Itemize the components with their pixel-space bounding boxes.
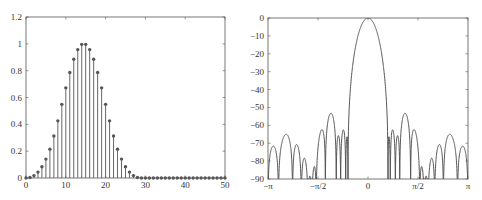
y-tick-label: 0.2	[11, 146, 22, 156]
stem-marker	[68, 71, 71, 74]
y-tick-label: −70	[250, 138, 265, 148]
stem-marker	[168, 176, 171, 179]
stem-marker	[144, 176, 147, 179]
x-tick-label: 20	[101, 180, 111, 190]
x-tick-label: 0	[366, 181, 371, 191]
stem-marker	[207, 176, 210, 179]
figure: 0102030405000.20.40.60.811.2 −π−π/20π/2π…	[0, 0, 482, 200]
y-tick-label: −50	[250, 102, 265, 112]
stem-marker	[211, 176, 214, 179]
stem-marker	[24, 176, 27, 179]
y-tick-label: −10	[250, 31, 265, 41]
y-tick-label: 1.2	[11, 12, 22, 22]
x-tick-label: −π/2	[310, 181, 327, 191]
stem-marker	[140, 176, 143, 179]
x-tick-label: 10	[61, 180, 71, 190]
y-tick-label: −20	[250, 49, 265, 59]
y-tick-label: −80	[250, 156, 265, 166]
y-tick-label: −40	[250, 85, 265, 95]
figure-canvas: 0102030405000.20.40.60.811.2 −π−π/20π/2π…	[0, 0, 482, 200]
stem-marker	[164, 176, 167, 179]
stem-marker	[76, 48, 79, 51]
stem-marker	[156, 176, 159, 179]
stem-marker	[187, 176, 190, 179]
stem-marker	[191, 176, 194, 179]
stem-marker	[104, 103, 107, 106]
x-tick-label: 40	[181, 180, 191, 190]
x-tick-label: −π	[263, 181, 273, 191]
stem-marker	[195, 176, 198, 179]
stem-marker	[136, 176, 139, 179]
stem-marker	[199, 176, 202, 179]
stem-marker	[36, 170, 39, 173]
y-tick-label: −90	[250, 174, 265, 184]
stem-marker	[96, 71, 99, 74]
y-tick-label: −60	[250, 120, 265, 130]
stem-marker	[80, 43, 83, 46]
stem-marker	[124, 165, 127, 168]
stem-marker	[203, 176, 206, 179]
plot-frame	[268, 18, 468, 179]
stem-marker	[223, 176, 226, 179]
stem-marker	[132, 174, 135, 177]
magnitude-curve	[268, 18, 468, 179]
stem-marker	[120, 157, 123, 160]
y-tick-label: 0.4	[11, 119, 23, 129]
stem-marker	[56, 119, 59, 122]
stem-marker	[44, 157, 47, 160]
x-tick-label: 30	[141, 180, 151, 190]
stem-marker	[180, 176, 183, 179]
x-tick-label: 50	[221, 180, 231, 190]
stem-marker	[160, 176, 163, 179]
stem-marker	[184, 176, 187, 179]
stem-marker	[100, 86, 103, 89]
stem-marker	[60, 103, 63, 106]
stem-marker	[72, 58, 75, 61]
stem-marker	[148, 176, 151, 179]
stem-marker	[176, 176, 179, 179]
stem-marker	[64, 86, 67, 89]
stem-marker	[219, 176, 222, 179]
x-tick-label: π/2	[412, 181, 424, 191]
stem-marker	[48, 147, 51, 150]
y-tick-label: 0	[18, 173, 23, 183]
stem-marker	[116, 147, 119, 150]
stem-marker	[152, 176, 155, 179]
stem-marker	[84, 43, 87, 46]
y-tick-label: 1	[18, 39, 23, 49]
x-tick-label: π	[466, 181, 471, 191]
stem-marker	[128, 170, 131, 173]
plot-frame	[26, 17, 225, 178]
stem-marker	[40, 165, 43, 168]
y-tick-label: 0	[260, 13, 265, 23]
stem-marker	[52, 134, 55, 137]
x-tick-label: 0	[24, 180, 29, 190]
stem-marker	[32, 174, 35, 177]
stem-marker	[112, 134, 115, 137]
magnitude-response-chart: −π−π/20π/2π0−10−20−30−40−50−60−70−80−90	[250, 13, 471, 191]
stem-marker	[92, 58, 95, 61]
y-tick-label: 0.6	[11, 93, 23, 103]
y-tick-label: 0.8	[11, 66, 23, 76]
stem-marker	[172, 176, 175, 179]
stem-marker	[88, 48, 91, 51]
stem-marker	[28, 176, 31, 179]
stem-marker	[108, 119, 111, 122]
stem-marker	[215, 176, 218, 179]
y-tick-label: −30	[250, 67, 265, 77]
window-stem-chart: 0102030405000.20.40.60.811.2	[11, 12, 230, 190]
